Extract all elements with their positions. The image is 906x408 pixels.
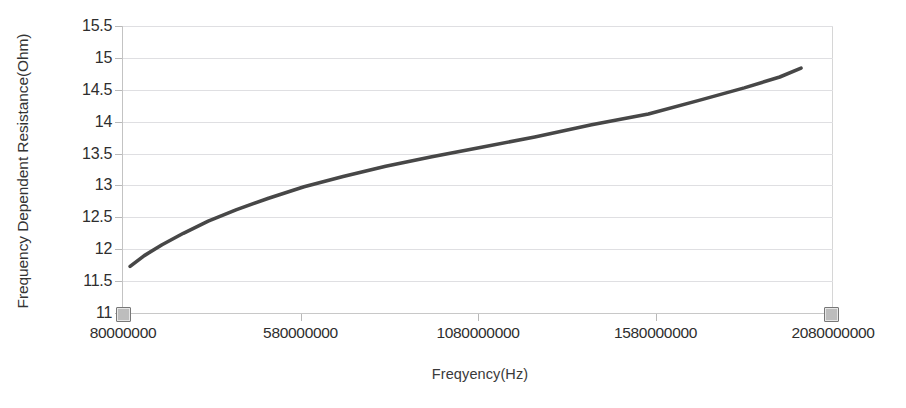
y-tick-label-13.5: 13.5 xyxy=(82,145,112,163)
y-tick-12 xyxy=(115,249,122,250)
y-tick-label-12.5: 12.5 xyxy=(82,208,112,226)
y-tick-14 xyxy=(115,122,122,123)
x-tick-label-80000000: 80000000 xyxy=(90,324,157,342)
data-line-0 xyxy=(130,68,801,266)
y-tick-13.5 xyxy=(115,154,122,155)
y-tick-11.5 xyxy=(115,281,122,282)
y-tick-label-14.5: 14.5 xyxy=(82,81,112,99)
x-axis-title: Freqyency(Hz) xyxy=(120,366,840,382)
x-tick-580000000 xyxy=(301,314,302,321)
y-tick-15 xyxy=(115,58,122,59)
y-tick-label-12: 12 xyxy=(95,240,112,258)
x-tick-1580000000 xyxy=(656,314,657,321)
y-tick-14.5 xyxy=(115,90,122,91)
y-tick-13 xyxy=(115,185,122,186)
x-tick-1080000000 xyxy=(478,314,479,321)
chart-screenshot: Frequency Dependent Resistance(Ohm) 1111… xyxy=(0,0,906,408)
data-series-layer xyxy=(123,26,833,313)
plot-area[interactable] xyxy=(123,26,833,313)
selection-handle-left[interactable] xyxy=(116,307,131,322)
y-tick-label-11.5: 11.5 xyxy=(83,272,112,290)
x-tick-label-580000000: 580000000 xyxy=(263,324,338,342)
y-tick-12.5 xyxy=(115,217,122,218)
chart-container[interactable]: Frequency Dependent Resistance(Ohm) 1111… xyxy=(0,0,906,408)
clipped-title-remnant xyxy=(150,0,770,4)
x-tick-label-1580000000: 1580000000 xyxy=(614,324,697,342)
y-tick-label-13: 13 xyxy=(95,176,112,194)
x-tick-label-2080000000: 2080000000 xyxy=(791,324,874,342)
y-tick-label-15.5: 15.5 xyxy=(82,17,112,35)
y-axis-title: Frequency Dependent Resistance(Ohm) xyxy=(8,6,38,336)
y-tick-label-15: 15 xyxy=(95,49,112,67)
x-tick-label-1080000000: 1080000000 xyxy=(436,324,519,342)
y-tick-15.5 xyxy=(115,26,122,27)
selection-handle-right[interactable] xyxy=(824,307,839,322)
y-tick-label-11: 11 xyxy=(96,304,112,322)
y-tick-label-14: 14 xyxy=(95,113,112,131)
